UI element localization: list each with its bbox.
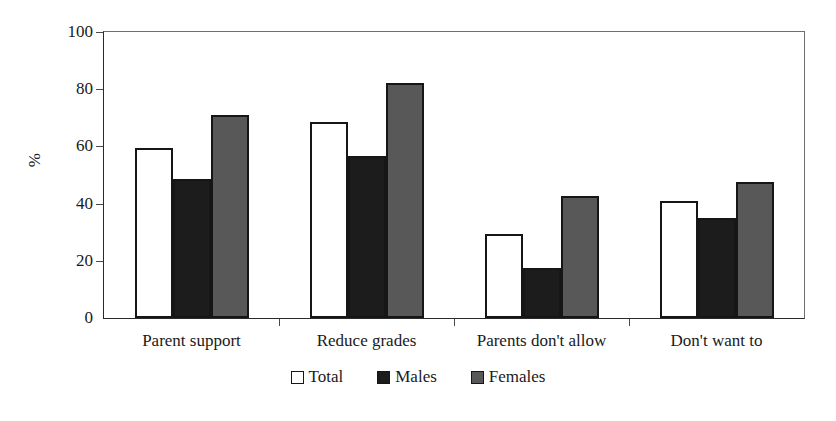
bar-males-reduce-grades — [348, 156, 386, 318]
x-axis-label-reduce-grades: Reduce grades — [279, 331, 454, 351]
x-axis-tick-1 — [279, 319, 280, 326]
legend-item-total: Total — [291, 367, 344, 387]
x-axis-label-parent-support: Parent support — [104, 331, 279, 351]
y-axis-tick-80 — [96, 89, 103, 90]
legend-item-males: Males — [377, 367, 437, 387]
x-axis-tick-2 — [454, 319, 455, 326]
y-axis-tick-label-40: 40 — [33, 195, 93, 212]
x-axis-tick-3 — [629, 319, 630, 326]
y-axis-tick-label-0: 0 — [33, 309, 93, 326]
y-axis-tick-40 — [96, 204, 103, 205]
bars-layer — [104, 32, 804, 318]
bar-females-parent-support — [211, 115, 249, 318]
bar-males-don-t-want-to — [698, 218, 736, 318]
legend-item-females: Females — [471, 367, 546, 387]
x-axis-label-don-t-want-to: Don't want to — [629, 331, 804, 351]
bar-total-parents-don-t-allow — [485, 234, 523, 318]
legend-label: Females — [489, 367, 546, 387]
bar-total-reduce-grades — [310, 122, 348, 318]
y-axis-tick-60 — [96, 146, 103, 147]
y-axis-tick-label-60: 60 — [33, 137, 93, 154]
y-axis-tick-label-20: 20 — [33, 252, 93, 269]
bar-females-don-t-want-to — [736, 182, 774, 318]
legend-swatch-total-icon — [291, 371, 304, 384]
y-axis-tick-100 — [96, 32, 103, 33]
bar-total-parent-support — [135, 148, 173, 318]
y-axis-tick-label-80: 80 — [33, 80, 93, 97]
bar-males-parents-don-t-allow — [523, 268, 561, 318]
bar-total-don-t-want-to — [660, 201, 698, 318]
y-axis-tick-20 — [96, 261, 103, 262]
y-axis-tick-label-100: 100 — [33, 23, 93, 40]
legend-label: Males — [395, 367, 437, 387]
legend-label: Total — [309, 367, 344, 387]
legend-swatch-females-icon — [471, 371, 484, 384]
bar-chart: % 100806040200 Parent supportReduce grad… — [0, 0, 836, 421]
bar-females-parents-don-t-allow — [561, 196, 599, 318]
legend-swatch-males-icon — [377, 371, 390, 384]
chart-legend: TotalMalesFemales — [0, 367, 836, 387]
x-axis-label-parents-don-t-allow: Parents don't allow — [454, 331, 629, 351]
bar-females-reduce-grades — [386, 83, 424, 318]
bar-males-parent-support — [173, 179, 211, 318]
